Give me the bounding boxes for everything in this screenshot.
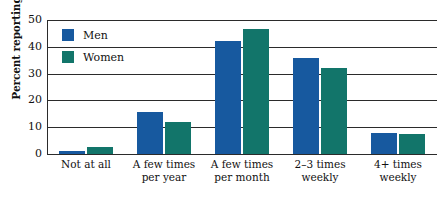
bar-men[interactable]: [293, 58, 319, 154]
bar-men[interactable]: [371, 133, 397, 154]
y-tick-label: 30: [14, 68, 42, 79]
x-tick-label: A few timesper year: [125, 158, 203, 183]
bar-women[interactable]: [165, 122, 191, 154]
y-tick-label: 0: [14, 148, 42, 159]
bar-women[interactable]: [321, 68, 347, 154]
bar-women[interactable]: [399, 134, 425, 154]
x-tick-label: 2–3 timesweekly: [281, 158, 359, 183]
y-tick-label: 10: [14, 121, 42, 132]
bar-chart: Percent reporting 01020304050 Not at all…: [0, 0, 447, 201]
legend-item-women[interactable]: Women: [62, 46, 148, 68]
bar-women[interactable]: [243, 29, 269, 154]
x-axis-tick-labels: Not at allA few timesper yearA few times…: [47, 158, 437, 200]
legend-label: Women: [83, 52, 124, 63]
bar-group: [215, 20, 269, 154]
y-tick-label: 50: [14, 14, 42, 25]
legend-label: Men: [83, 30, 108, 41]
x-tick-label: 4+ timesweekly: [359, 158, 437, 183]
gridline-0: [47, 154, 437, 155]
y-axis-line: [47, 20, 48, 154]
bar-group: [293, 20, 347, 154]
x-tick-label: Not at all: [47, 158, 125, 171]
bar-men[interactable]: [215, 41, 241, 154]
legend-item-men[interactable]: Men: [62, 24, 148, 46]
legend: MenWomen: [62, 24, 148, 68]
legend-swatch-icon: [62, 29, 74, 41]
bar-women[interactable]: [87, 147, 113, 154]
bar-men[interactable]: [137, 112, 163, 154]
bar-men[interactable]: [59, 151, 85, 154]
y-tick-label: 20: [14, 94, 42, 105]
bar-group: [371, 20, 425, 154]
y-tick-label: 40: [14, 41, 42, 52]
legend-swatch-icon: [62, 51, 74, 63]
x-tick-label: A few timesper month: [203, 158, 281, 183]
